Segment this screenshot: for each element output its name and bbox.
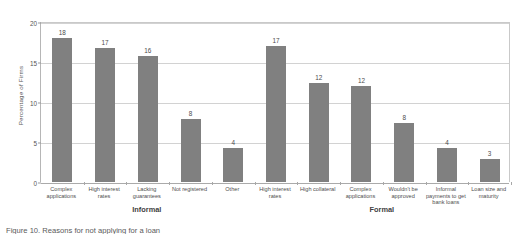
bar-value-label: 3 — [488, 150, 492, 157]
y-tick-mark-5 — [38, 143, 41, 144]
gridline-20 — [41, 23, 509, 24]
bar: 16 — [138, 56, 158, 182]
x-tick-mark — [169, 182, 170, 185]
bar: 18 — [52, 38, 72, 182]
x-category-label: Wouldn't be approved — [382, 186, 425, 199]
y-tick-label-15: 15 — [30, 60, 37, 67]
x-category-label: Complex applications — [40, 186, 83, 199]
y-axis-title: Percentage of Firms — [17, 26, 24, 166]
x-category-label: Not registered — [168, 186, 211, 193]
bar: 12 — [309, 83, 329, 182]
y-tick-mark-0 — [38, 183, 41, 184]
bar-value-label: 12 — [315, 74, 322, 81]
x-tick-mark — [297, 182, 298, 185]
bar-value-label: 8 — [402, 114, 406, 121]
bar-value-label: 8 — [189, 110, 193, 117]
y-tick-label-5: 5 — [33, 140, 37, 147]
bar: 3 — [480, 159, 500, 182]
x-category-label: High interest rates — [83, 186, 126, 199]
y-tick-mark-15 — [38, 63, 41, 64]
bar-value-label: 4 — [231, 139, 235, 146]
y-tick-label-20: 20 — [30, 20, 37, 27]
x-category-label: High collateral — [296, 186, 339, 193]
x-tick-mark — [126, 182, 127, 185]
bar: 17 — [266, 46, 286, 182]
y-tick-label-0: 0 — [33, 180, 37, 187]
bar: 4 — [437, 148, 457, 182]
x-category-label: Other — [211, 186, 254, 193]
x-tick-mark — [511, 182, 512, 185]
bar-value-label: 17 — [102, 39, 109, 46]
x-category-label: Informal payments to get bank loans — [425, 186, 468, 206]
x-tick-mark — [255, 182, 256, 185]
y-tick-mark-20 — [38, 23, 41, 24]
x-category-label: High interest rates — [254, 186, 297, 199]
figure-caption: Figure 10. Reasons for not applying for … — [6, 226, 518, 234]
bar: 12 — [351, 86, 371, 182]
bar: 8 — [181, 119, 201, 182]
group-label-formal: Formal — [322, 205, 442, 214]
x-category-label: Complex applications — [339, 186, 382, 199]
bar: 8 — [394, 123, 414, 182]
bar-chart-figure: Percentage of Firms 05101520181716841712… — [0, 0, 524, 234]
x-tick-mark — [383, 182, 384, 185]
bar-value-label: 16 — [144, 47, 151, 54]
bar-value-label: 17 — [272, 37, 279, 44]
x-category-label: Lacking guarantees — [125, 186, 168, 199]
plot-area: 0510152018171684171212843 — [40, 22, 510, 182]
x-category-label: Loan size and maturity — [467, 186, 510, 199]
x-tick-mark — [426, 182, 427, 185]
bar: 17 — [95, 48, 115, 182]
y-tick-label-10: 10 — [30, 100, 37, 107]
bar-value-label: 18 — [59, 29, 66, 36]
group-label-informal: Informal — [87, 205, 207, 214]
x-tick-mark — [468, 182, 469, 185]
bar: 4 — [223, 148, 243, 182]
gridline-0 — [41, 183, 509, 184]
x-tick-mark — [84, 182, 85, 185]
bar-value-label: 12 — [358, 77, 365, 84]
x-tick-mark — [212, 182, 213, 185]
y-tick-mark-10 — [38, 103, 41, 104]
x-tick-mark — [340, 182, 341, 185]
bar-value-label: 4 — [445, 139, 449, 146]
